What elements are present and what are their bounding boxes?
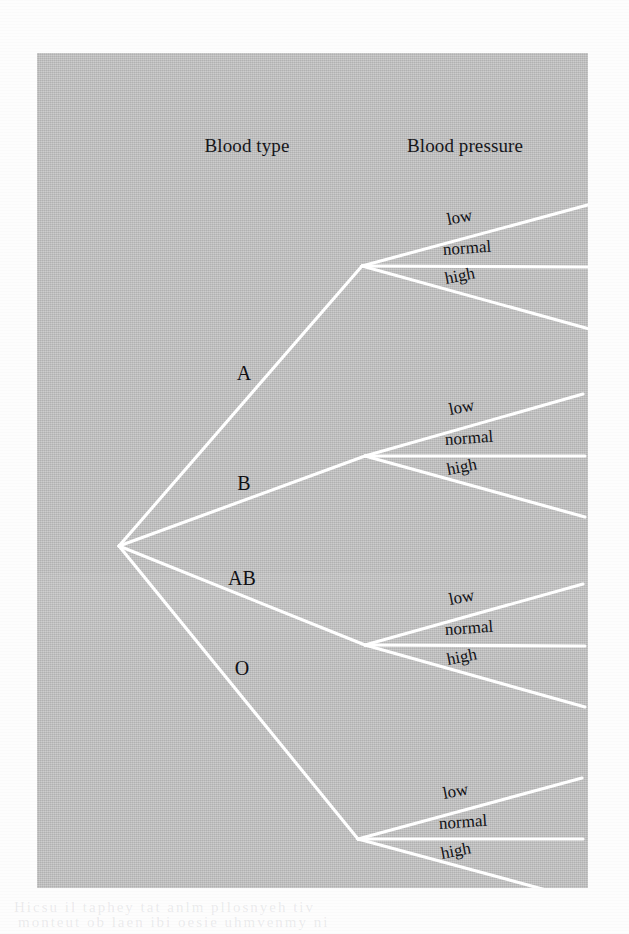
tree-diagram-figure: Blood typeBlood pressure ABABO lownormal…: [37, 53, 588, 888]
blood-pressure-label-ab-normal: normal: [444, 617, 493, 640]
branch-root-to-b: [119, 456, 365, 546]
scanned-page: Blood typeBlood pressure ABABO lownormal…: [0, 0, 629, 934]
column-header-blood-type: Blood type: [205, 135, 290, 157]
blood-pressure-label-a-normal: normal: [442, 237, 491, 260]
bleed-text-line: monteut ob laen ibi oesie uhmvenmy ni: [18, 914, 329, 931]
branch-root-to-a: [119, 266, 362, 546]
blood-pressure-label-o-normal: normal: [438, 811, 487, 834]
branch-root-to-o: [119, 546, 358, 839]
blood-type-label-b: B: [237, 472, 250, 495]
branch-root-to-ab: [119, 546, 365, 645]
blood-type-label-a: A: [237, 362, 251, 385]
tree-branches: [37, 53, 588, 888]
branch-a-normal: [362, 266, 588, 267]
blood-pressure-label-b-normal: normal: [444, 427, 493, 450]
column-header-blood-pressure: Blood pressure: [407, 135, 523, 157]
blood-type-label-o: O: [235, 657, 249, 680]
blood-type-label-ab: AB: [228, 567, 256, 590]
